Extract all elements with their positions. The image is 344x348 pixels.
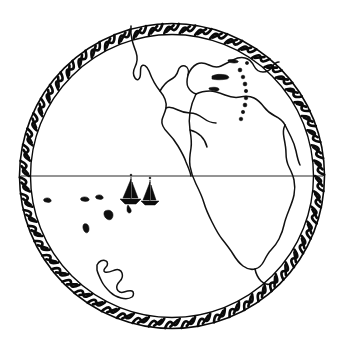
landmass-cuba [212, 74, 229, 79]
globe-emblem-artwork [0, 0, 344, 348]
rope-strand-tick [278, 79, 288, 80]
rope-strand-tick [56, 272, 66, 273]
rope-strand-tick [80, 55, 82, 65]
rope-strand-tick [262, 287, 264, 297]
pacific-island-3 [96, 195, 104, 199]
pacific-island-1 [44, 198, 52, 202]
rope-strand-tick [69, 65, 70, 75]
rope-strand-tick [48, 90, 50, 100]
rope-strand-tick [79, 294, 89, 295]
pacific-island-2 [81, 197, 90, 201]
rope-strand-tick [294, 252, 296, 262]
rope-strand-tick [255, 57, 265, 58]
rope-strand-tick [275, 277, 276, 287]
globe-emblem-svg [0, 0, 344, 348]
